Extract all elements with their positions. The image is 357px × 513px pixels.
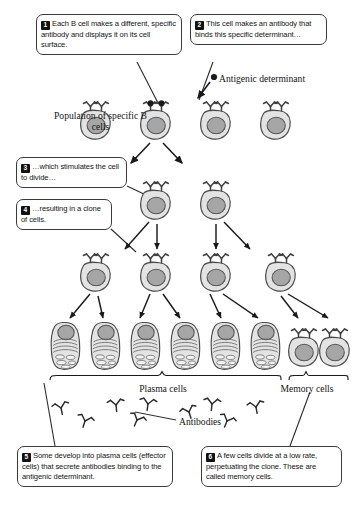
step-number-badge: 6 [206, 453, 215, 462]
antibody [127, 412, 147, 430]
bound-antigen-dot [159, 100, 165, 106]
b-cell [81, 254, 111, 291]
memory-cell [320, 329, 350, 366]
plasma-cell [91, 322, 120, 369]
antibody [203, 398, 221, 411]
antibody [107, 399, 125, 412]
callout-step-2: 2This cell makes an antibody that binds … [190, 14, 327, 45]
plasma-cell [211, 322, 240, 369]
antibody [52, 401, 71, 416]
label-antigenic-determinant: Antigenic determinant [219, 73, 309, 85]
division-arrows-2 [125, 222, 250, 249]
memory-cells-bracket [289, 372, 348, 381]
antibody [139, 398, 157, 412]
callout-step-5: 5Some develop into plasma cells (effecto… [17, 446, 173, 487]
callout-step-3: 3…which stimulates the cell to divide… [16, 157, 127, 188]
b-cell [141, 254, 171, 291]
step-number-badge: 3 [21, 164, 30, 173]
division-row-3 [81, 254, 296, 291]
step-number-badge: 5 [22, 453, 31, 462]
b-cell [201, 254, 231, 291]
callout-step-1: 1Each B cell makes a different, specific… [36, 14, 182, 55]
antibody [247, 400, 266, 414]
callout-text: This cell makes an antibody that binds t… [195, 19, 311, 39]
division-arrows-3 [70, 294, 328, 318]
label-population-of-b-cells: Population of specific B cells [53, 110, 148, 132]
label-antibodies: Antibodies [179, 416, 259, 427]
plasma-cell [51, 322, 80, 369]
figure-canvas: 1Each B cell makes a different, specific… [0, 0, 357, 513]
callout-text: A few cells divide at a low rate, perpet… [206, 451, 317, 481]
callout-text: …which stimulates the cell to divide… [21, 162, 119, 182]
callout-text: Some develop into plasma cells (effector… [22, 451, 166, 481]
step-number-badge: 1 [41, 21, 50, 30]
plasma-cell [131, 322, 160, 369]
step-number-badge: 2 [195, 21, 204, 30]
division-arrows-1 [131, 143, 182, 163]
b-cell [141, 182, 171, 219]
b-cell [261, 102, 291, 139]
plasma-cells-bracket [50, 372, 281, 381]
plasma-cell [251, 322, 280, 369]
memory-cell [289, 329, 319, 366]
step-number-badge: 4 [21, 206, 30, 215]
division-row-2 [141, 182, 231, 219]
bound-antigen-dot [148, 100, 154, 106]
callout-step-6: 6A few cells divide at a low rate, perpe… [201, 446, 342, 487]
callout-step-4: 4…resulting in a clone of cells. [16, 199, 112, 230]
b-cell [201, 182, 231, 219]
antibody [75, 413, 95, 429]
label-plasma-cells: Plasma cells [108, 383, 218, 394]
label-memory-cells: Memory cells [265, 383, 349, 394]
final-row [51, 322, 349, 369]
callout-text: …resulting in a clone of cells. [21, 204, 101, 224]
callout-text: Each B cell makes a different, specific … [41, 19, 176, 49]
b-cell [266, 254, 296, 291]
b-cell [201, 102, 231, 139]
plasma-cell [171, 322, 200, 369]
